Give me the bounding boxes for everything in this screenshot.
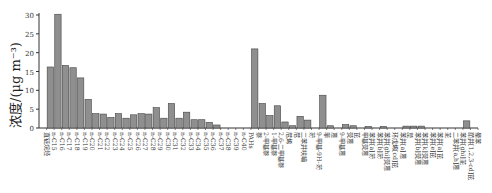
bar [47, 67, 53, 128]
bar [252, 49, 258, 128]
bar [320, 95, 326, 128]
x-tick-label: n-C30 [165, 132, 172, 151]
bar-chart: 051015202530直链烷烃n-C15n-C16n-C17n-C18n-C1… [0, 0, 492, 193]
x-tick-label: n-C36 [210, 132, 217, 151]
bar [93, 114, 99, 128]
bar [130, 115, 136, 128]
bar [403, 126, 409, 128]
x-tick-label: n-C24 [119, 132, 126, 151]
x-tick-label: n-C33 [188, 132, 195, 151]
y-tick-label: 15 [25, 69, 34, 77]
y-tick-label: 0 [30, 125, 34, 133]
bar [153, 108, 159, 128]
x-tick-label: 荧蒽 [346, 132, 354, 144]
y-tick-label: 30 [25, 12, 34, 20]
x-tick-label: n-C28 [150, 132, 157, 151]
x-tick-label: 9-甲基-9H-芴 [315, 132, 323, 170]
bar [161, 118, 167, 128]
x-tick-label: 苯并[a]蒽 [399, 132, 407, 159]
bar [199, 120, 205, 128]
x-tick-label: 二苯并[a,h]蒽 [452, 132, 460, 170]
bar [463, 121, 469, 128]
bar [168, 104, 174, 128]
x-tick-label: 晕苯 [474, 132, 482, 144]
x-tick-label: 苯并[k]荧蒽 [421, 132, 429, 165]
x-tick-label: 菲 [323, 132, 331, 138]
bar [100, 114, 106, 128]
x-tick-label: 苊烯 [285, 132, 293, 144]
x-tick-label: n-C40 [241, 132, 248, 151]
bar [297, 116, 303, 128]
x-tick-label: n-C35 [203, 132, 210, 151]
y-tick-label: 5 [30, 106, 34, 114]
bar [191, 120, 197, 128]
bar [55, 14, 61, 128]
bar [183, 112, 189, 128]
x-tick-label: 蒽 [331, 132, 338, 138]
x-tick-label: n-C21 [97, 132, 104, 151]
bar [289, 126, 295, 128]
x-tick-label: n-C17 [66, 132, 73, 151]
bar [305, 120, 311, 128]
x-tick-label: 芴 [308, 132, 316, 138]
bar [77, 78, 83, 128]
bar [214, 125, 220, 128]
x-tick-label: n-C38 [225, 132, 232, 151]
x-tick-label: n-C20 [89, 132, 96, 151]
bar [418, 126, 424, 128]
x-tick-label: n-C18 [74, 132, 81, 151]
bar [85, 99, 91, 128]
x-tick-label: 环戊烯[cd]芘 [391, 132, 399, 168]
y-tick-label: 20 [25, 50, 34, 58]
x-tick-label: 萘 [256, 132, 263, 139]
x-tick-label: 2-甲基萘 [262, 132, 270, 157]
x-tick-label: 䓛 [406, 132, 414, 138]
x-tick-label: n-C32 [180, 132, 187, 151]
x-tick-label: n-C26 [135, 132, 142, 151]
x-tick-label: n-C15 [51, 132, 58, 151]
x-tick-label: 苯并[b]荧蒽 [414, 132, 422, 165]
x-tick-label: 1-甲基萘 [270, 132, 278, 157]
bar [282, 122, 288, 128]
x-tick-label: 苝 [444, 132, 452, 138]
x-tick-label: n-C23 [112, 132, 119, 151]
x-tick-label: n-C34 [195, 132, 202, 151]
y-tick-label: 10 [25, 87, 34, 95]
x-tick-label: 二苯并呋喃 [300, 132, 308, 162]
x-tick-label: 甲基荧蒽 [361, 132, 369, 156]
bar [327, 126, 333, 128]
x-tick-label: n-C39 [233, 132, 240, 151]
bar [70, 68, 76, 128]
bar [146, 114, 152, 128]
bar [115, 114, 121, 128]
y-tick-label: 25 [25, 31, 34, 39]
bar [267, 116, 273, 128]
x-tick-label: PAHs [248, 132, 255, 149]
x-tick-label: n-C25 [127, 132, 134, 151]
x-tick-label: n-C19 [82, 132, 89, 151]
x-tick-label: 直链烷烃 [43, 132, 51, 156]
x-tick-label: 苯并[ghi]荧蒽 [383, 132, 391, 171]
x-tick-label: 苯并[e]芘 [429, 132, 437, 159]
bar [365, 126, 371, 128]
bar [410, 126, 416, 128]
bar [176, 118, 182, 128]
bar [350, 126, 356, 128]
bar [108, 117, 114, 128]
x-tick-label: n-C16 [59, 132, 66, 151]
bar [342, 125, 348, 128]
bar [123, 118, 129, 128]
x-tick-label: 苯并[a]芴 [368, 132, 376, 159]
bar [138, 114, 144, 128]
x-tick-label: n-C37 [218, 132, 225, 151]
x-tick-label: 苯并[ghi]苝 [459, 132, 467, 165]
x-tick-label: n-C27 [142, 132, 149, 151]
x-tick-label: 9-甲基蒽 [338, 132, 346, 156]
bar [206, 122, 212, 128]
x-tick-label: 芘 [353, 132, 361, 138]
x-tick-label: 茚并[1,2,3-cd]芘 [467, 132, 475, 180]
x-tick-label: n-C31 [172, 132, 179, 151]
bar [380, 126, 386, 128]
x-tick-label: 2,6-二甲基萘 [277, 132, 285, 169]
x-tick-label: 苯并[b]芴 [376, 132, 384, 159]
